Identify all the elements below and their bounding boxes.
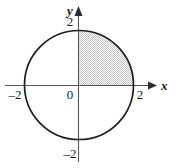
y-axis-arrowhead xyxy=(75,6,83,16)
y-tick-positive-2: 2 xyxy=(67,14,74,29)
y-tick-negative-2: –2 xyxy=(63,146,77,161)
x-tick-negative-2: –2 xyxy=(8,87,22,102)
circle-graph-figure: x y 2 –2 2 –2 0 xyxy=(0,0,178,168)
x-tick-positive-2: 2 xyxy=(137,87,144,102)
x-axis-label: x xyxy=(160,78,168,93)
origin-label: 0 xyxy=(67,87,74,102)
x-axis-arrowhead xyxy=(148,82,157,90)
graph-canvas: x y 2 –2 2 –2 0 xyxy=(0,0,178,168)
